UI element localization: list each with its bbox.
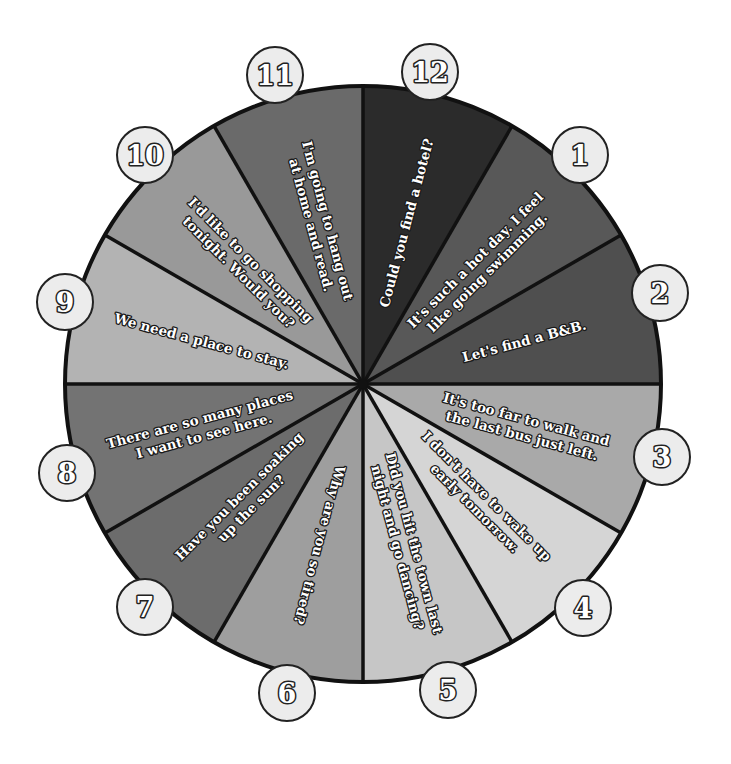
number-badge-8: 8 <box>39 445 95 501</box>
svg-text:7: 7 <box>136 592 155 623</box>
conversation-wheel: Could you find a hotel?It's such a hot d… <box>0 0 731 764</box>
svg-text:4: 4 <box>574 593 593 624</box>
svg-text:11: 11 <box>256 60 294 91</box>
svg-text:2: 2 <box>651 278 670 309</box>
svg-text:3: 3 <box>653 442 672 473</box>
number-badge-3: 3 <box>634 429 690 485</box>
number-badge-4: 4 <box>555 580 611 636</box>
number-badge-12: 12 <box>402 44 458 100</box>
svg-text:9: 9 <box>56 287 75 318</box>
svg-text:1: 1 <box>571 140 590 171</box>
number-badge-11: 11 <box>247 47 303 103</box>
svg-text:12: 12 <box>411 57 449 88</box>
number-badge-5: 5 <box>420 662 476 718</box>
svg-text:8: 8 <box>58 458 77 489</box>
number-badge-6: 6 <box>259 665 315 721</box>
number-badge-7: 7 <box>117 579 173 635</box>
number-badge-10: 10 <box>117 127 173 183</box>
wheel-hub <box>358 379 368 389</box>
number-badge-1: 1 <box>552 127 608 183</box>
number-badge-2: 2 <box>632 265 688 321</box>
number-badge-9: 9 <box>37 274 93 330</box>
svg-text:10: 10 <box>126 140 164 171</box>
svg-text:5: 5 <box>439 675 458 706</box>
svg-text:6: 6 <box>278 678 297 709</box>
